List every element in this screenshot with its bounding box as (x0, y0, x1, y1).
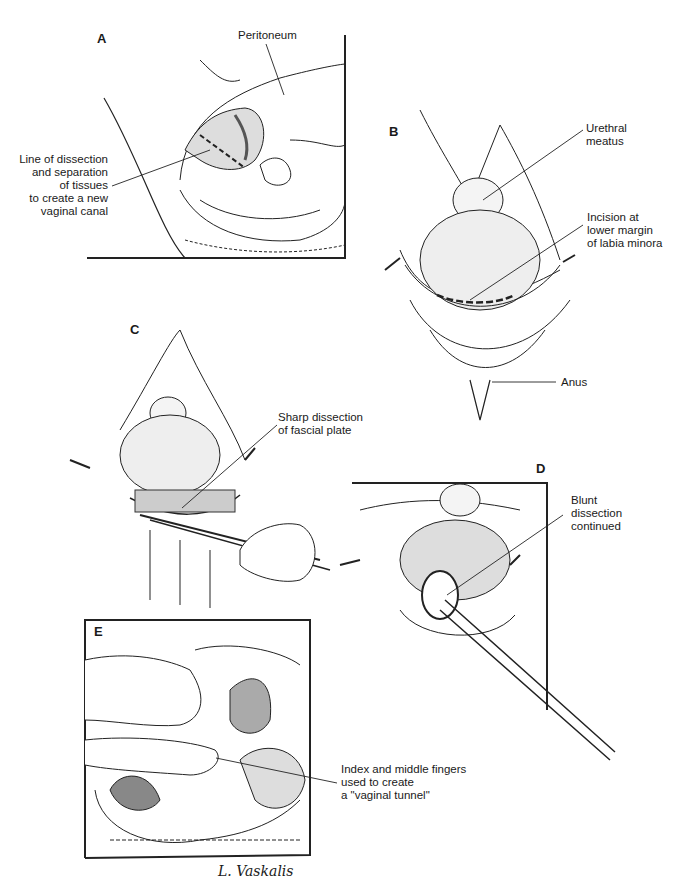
label-index-middle-fingers: Index and middle fingers used to create … (341, 763, 466, 802)
label-line-of-dissection: Line of dissection and separation of tis… (18, 153, 108, 218)
label-sharp-dissection: Sharp dissection of fascial plate (278, 411, 363, 437)
label-urethral-meatus: Urethral meatus (586, 122, 627, 148)
label-blunt-dissection: Blunt dissection continued (571, 494, 622, 533)
panel-e-artwork (85, 620, 337, 858)
panel-letter-e: E (94, 624, 103, 639)
panel-letter-b: B (389, 124, 398, 139)
label-peritoneum: Peritoneum (238, 29, 297, 42)
panel-c-artwork (70, 330, 330, 608)
artist-signature: L. Vaskalis (218, 863, 294, 879)
label-incision: Incision at lower margin of labia minora (587, 211, 662, 250)
panel-b-artwork (385, 110, 583, 420)
panel-letter-a: A (97, 31, 106, 46)
label-anus: Anus (561, 376, 587, 389)
panel-a-artwork (87, 35, 345, 258)
panel-letter-d: D (536, 461, 545, 476)
panel-letter-c: C (130, 322, 139, 337)
